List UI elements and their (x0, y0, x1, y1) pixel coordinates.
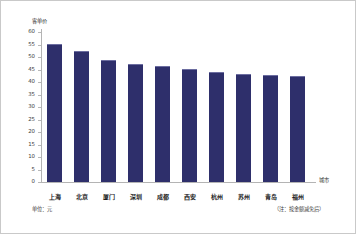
y-axis-tick-label: 35 (28, 91, 35, 97)
bar-group[interactable] (41, 32, 68, 182)
x-axis-category-label: 青岛 (257, 192, 284, 201)
y-axis-tick-label: 15 (28, 141, 35, 147)
x-axis-line (41, 182, 316, 183)
x-axis-category-label: 上海 (41, 192, 68, 201)
bar[interactable] (263, 75, 278, 182)
x-axis-category-label: 深圳 (122, 192, 149, 201)
y-axis-tick-label: 0 (32, 178, 35, 184)
bar[interactable] (209, 72, 224, 183)
bar[interactable] (290, 76, 305, 182)
bar[interactable] (101, 60, 116, 182)
x-axis-category-label: 杭州 (203, 192, 230, 201)
x-axis-category-label: 成都 (149, 192, 176, 201)
y-axis-tick-label: 55 (28, 41, 35, 47)
bar-group[interactable] (230, 32, 257, 182)
x-axis-category-label: 福州 (284, 192, 311, 201)
y-axis-tick-label: 60 (28, 28, 35, 34)
bar-group[interactable] (95, 32, 122, 182)
bar[interactable] (182, 69, 197, 183)
bar-group[interactable] (68, 32, 95, 182)
x-axis-category-label: 西安 (176, 192, 203, 201)
bar-group[interactable] (149, 32, 176, 182)
y-axis-tick-label: 10 (28, 153, 35, 159)
source-note: （注：按金额减免后） (274, 205, 324, 212)
y-axis-tick-label: 30 (28, 103, 35, 109)
plot-area (41, 32, 311, 182)
bar[interactable] (155, 66, 170, 182)
y-axis-tick-label: 45 (28, 66, 35, 72)
x-axis-category-label: 厦门 (95, 192, 122, 201)
bar-group[interactable] (176, 32, 203, 182)
y-axis-title: 客单价 (32, 17, 48, 24)
y-axis-tick-label: 40 (28, 78, 35, 84)
bar-group[interactable] (203, 32, 230, 182)
x-axis-category-label: 北京 (68, 192, 95, 201)
bar[interactable] (47, 44, 62, 183)
y-axis-tick-label: 25 (28, 116, 35, 122)
y-axis-tick-label: 20 (28, 128, 35, 134)
x-axis-title: 城市 (319, 176, 329, 183)
bar[interactable] (128, 64, 143, 183)
chart-figure: 客单价 城市 051015202530354045505560 单位：元 （注：… (0, 0, 356, 234)
bar[interactable] (236, 74, 251, 183)
bar-group[interactable] (122, 32, 149, 182)
y-axis-tick-mark (38, 182, 41, 183)
y-axis-tick-label: 50 (28, 53, 35, 59)
unit-note: 单位：元 (32, 205, 52, 212)
bar-group[interactable] (257, 32, 284, 182)
x-axis-category-label: 苏州 (230, 192, 257, 201)
bar-group[interactable] (284, 32, 311, 182)
bar[interactable] (74, 51, 89, 182)
y-axis-tick-label: 5 (32, 166, 35, 172)
